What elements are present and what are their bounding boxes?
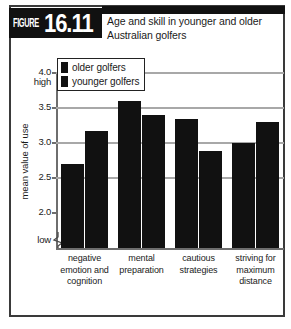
bar-0-1 [118,101,141,248]
y-tick-label-2.5: 2.5 [11,171,51,182]
legend-swatch-younger [61,76,68,87]
y-axis-high-label: high [11,76,51,87]
y-axis-tick-labels: 4.0 high 3.5 3.0 2.5 2.0 low [13,46,51,317]
bar-1-3 [256,122,279,248]
legend-item-younger: younger golfers [61,74,139,88]
x-axis-labels: negativeemotion andcognitionmentalprepar… [56,253,284,313]
figure-header: FIGURE 16.11 Age and skill in younger an… [9,6,285,46]
figure-number-tab: FIGURE 16.11 [9,8,102,38]
legend-label-younger: younger golfers [72,76,139,87]
bar-0-3 [232,143,255,248]
y-tick-label-3.5: 3.5 [11,101,51,112]
y-tick-label-3.0: 3.0 [11,136,51,147]
figure-label-word: FIGURE [13,17,39,29]
chart-plot-area: mean value of use 4.0 high 3.5 3.0 2.5 2… [9,46,285,317]
legend-item-older: older golfers [61,60,139,74]
y-axis-low-label: low [11,234,51,245]
header-black-bar [102,6,285,14]
bar-1-1 [142,115,165,248]
bar-1-2 [199,151,222,248]
y-tick-label-2.0: 2.0 [11,206,51,217]
bar-0-0 [61,164,84,248]
bar-0-2 [175,119,198,248]
figure-container: FIGURE 16.11 Age and skill in younger an… [0,0,291,329]
x-axis-label-3: striving formaximumdistance [222,253,289,288]
chart-legend: older golfers younger golfers [57,58,145,91]
legend-swatch-older [61,62,68,73]
bar-1-0 [85,131,108,248]
legend-label-older: older golfers [72,62,126,73]
figure-title: Age and skill in younger and older Austr… [107,15,287,42]
figure-number: 16.11 [44,11,93,36]
